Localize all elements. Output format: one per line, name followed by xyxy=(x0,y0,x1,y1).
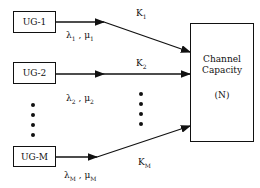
rate-label-2: λ2 , μ2 xyxy=(66,93,94,105)
source-box-ug-1: UG-1 xyxy=(13,11,56,33)
source-box-ug-m: UG-M xyxy=(13,146,56,167)
source-label: UG-1 xyxy=(23,17,47,27)
source-box-ug-2: UG-2 xyxy=(13,62,56,84)
channel-capacity-box: Channel Capacity (N) xyxy=(190,23,254,142)
ellipsis-dot xyxy=(139,122,143,126)
source-label: UG-M xyxy=(21,152,48,162)
source-label: UG-2 xyxy=(23,68,47,78)
sink-capacity-n: (N) xyxy=(215,90,230,101)
ellipsis-dot xyxy=(139,92,143,96)
link-label-m: KM xyxy=(138,157,151,169)
ellipsis-dot xyxy=(139,102,143,106)
ellipsis-dot xyxy=(31,123,35,127)
sink-line-2: Capacity xyxy=(202,65,242,76)
ellipsis-dot xyxy=(139,112,143,116)
link-label-1: K1 xyxy=(136,8,147,20)
ellipsis-dot xyxy=(31,103,35,107)
ellipsis-dot xyxy=(31,113,35,117)
ellipsis-dot xyxy=(31,133,35,137)
link-label-2: K2 xyxy=(136,58,147,70)
sink-line-1: Channel xyxy=(203,54,241,65)
rate-label-m: λM , μM xyxy=(64,170,97,182)
rate-label-1: λ1 , μ1 xyxy=(66,30,94,42)
